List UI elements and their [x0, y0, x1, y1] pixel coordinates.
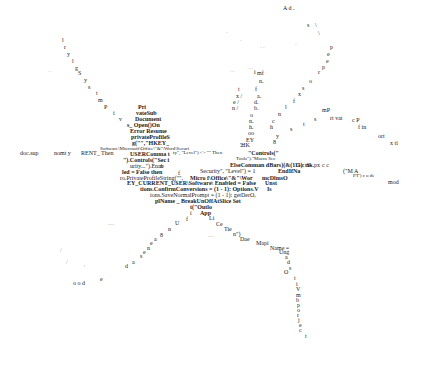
- text-fragment: c: [299, 327, 302, 333]
- text-fragment: 8: [160, 232, 163, 238]
- text-fragment: a: [132, 259, 135, 265]
- text-fragment: c P: [352, 117, 360, 123]
- text-fragment: P: [104, 104, 107, 110]
- text-fragment: s: [302, 85, 304, 91]
- text-fragment: d: [125, 263, 128, 269]
- text-fragment: c c: [322, 162, 329, 168]
- text-fragment: t: [305, 333, 307, 339]
- text-fragment: . .: [48, 68, 52, 73]
- text-fragment: t: [96, 90, 98, 96]
- text-fragment: s: [289, 265, 291, 271]
- text-fragment: y: [84, 77, 87, 83]
- text-fragment: v: [119, 116, 122, 122]
- text-fragment: l: [285, 104, 287, 110]
- text-fragment: ': [84, 264, 85, 270]
- text-fragment: i: [254, 69, 256, 75]
- text-fragment: x ti: [390, 140, 398, 146]
- text-fragment: Ce: [216, 221, 223, 227]
- text-fragment: …: [108, 220, 114, 226]
- text-fragment: \: [318, 30, 320, 36]
- text-fragment: e: [143, 249, 146, 255]
- text-fragment: ty", "Level") <> "" Then: [173, 150, 222, 155]
- text-fragment: a: [154, 236, 157, 242]
- text-fragment: m: [98, 97, 103, 103]
- text-fragment: 8: [273, 139, 276, 145]
- text-fragment: …: [230, 68, 235, 73]
- text-fragment: doc.sup: [20, 150, 39, 156]
- text-fragment: i: [190, 210, 192, 216]
- text-fragment: f in: [358, 124, 366, 130]
- text-fragment: "": [240, 145, 244, 150]
- text-fragment: A d .: [283, 5, 295, 11]
- text-fragment: Tie: [224, 226, 232, 232]
- text-fragment: mod: [388, 179, 399, 185]
- text-fragment: mP: [322, 107, 330, 113]
- text-fragment: n: [147, 245, 150, 251]
- text-fragment: n: [168, 226, 171, 232]
- text-fragment: …: [248, 65, 253, 70]
- text-fragment: Dae: [240, 236, 250, 242]
- text-fragment: l: [62, 37, 64, 43]
- text-fragment: -: [240, 38, 242, 43]
- text-fragment: O: [284, 269, 288, 275]
- text-fragment: n /: [232, 105, 238, 111]
- text-fragment: p: [330, 44, 333, 50]
- text-fragment: -: [295, 42, 297, 47]
- text-fragment: RENT_ Then: [81, 150, 113, 156]
- text-fragment: x: [298, 91, 301, 97]
- text-fragment: ort: [378, 133, 385, 139]
- text-fragment: s: [140, 253, 142, 259]
- text-fragment: s: [88, 84, 90, 90]
- text-fragment: i: [113, 110, 115, 116]
- text-fragment: t: [238, 86, 240, 92]
- text-fragment: U: [175, 220, 179, 226]
- text-fragment: o o d: [73, 280, 85, 286]
- text-fragment: o: [309, 78, 312, 84]
- text-fragment: mf: [257, 70, 264, 76]
- text-fragment: s: [290, 126, 292, 132]
- text-fragment: …: [208, 232, 214, 238]
- text-fragment: px: [314, 162, 320, 168]
- text-fragment: e: [326, 58, 329, 64]
- text-fragment: /: [60, 247, 62, 253]
- text-fragment: S: [78, 70, 81, 76]
- text-fragment: h: [270, 124, 273, 130]
- text-fragment: y: [67, 51, 70, 57]
- text-fragment: Security", "Level") = 1: [200, 168, 255, 174]
- text-fragment: rt vat: [330, 115, 343, 121]
- text-fragment: r: [318, 69, 320, 75]
- text-fragment: n.: [259, 78, 264, 84]
- text-fragment: l: [72, 58, 74, 64]
- text-fragment: PT') c o de: [353, 173, 375, 178]
- text-fragment: y: [276, 133, 279, 139]
- text-fragment: -: [226, 30, 228, 35]
- text-fragment: r: [64, 44, 66, 50]
- text-fragment: p: [322, 64, 325, 70]
- text-fragment: oo: [248, 130, 254, 136]
- text-fragment: f: [186, 216, 188, 222]
- text-fragment: Mapi: [256, 240, 269, 246]
- text-fragment: Tools")."Macro Sec: [236, 156, 276, 161]
- text-fragment: \: [315, 22, 317, 28]
- text-fragment: nomt y: [54, 150, 71, 156]
- text-fragment: f: [293, 98, 295, 104]
- text-fragment: s: [307, 22, 309, 28]
- text-fragment: s: [314, 116, 316, 122]
- text-fragment: f: [255, 86, 257, 92]
- text-fragment: b.: [254, 105, 259, 111]
- text-fragment: /: [66, 259, 68, 265]
- text-fragment: t: [303, 121, 305, 127]
- text-fragment: n: [278, 111, 281, 117]
- text-fragment: e: [150, 240, 153, 246]
- text-fragment: Li: [209, 215, 214, 221]
- text-fragment: e: [100, 276, 103, 282]
- text-fragment: EndIfNa: [278, 168, 300, 174]
- text-fragment: - -: [260, 45, 265, 50]
- text-fragment: e: [327, 51, 330, 57]
- text-fragment: Is: [267, 186, 272, 192]
